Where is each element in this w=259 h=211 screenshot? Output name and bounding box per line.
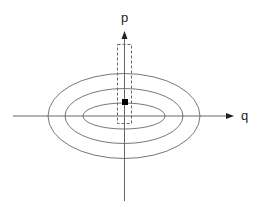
phase-space-diagram: p q bbox=[0, 0, 259, 211]
p-axis-arrowhead-icon bbox=[122, 31, 128, 39]
point-marker bbox=[122, 99, 128, 105]
q-axis-arrowhead-icon bbox=[226, 113, 234, 119]
p-axis-label: p bbox=[121, 10, 128, 25]
q-axis-label: q bbox=[241, 108, 248, 123]
